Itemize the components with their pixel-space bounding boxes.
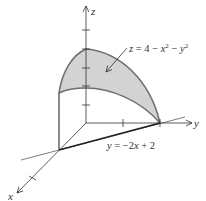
triple-integral-region-diagram: z y x z = 4 − x2 − y2 y = −2x + 2	[0, 0, 206, 201]
line-equation-label: y = −2x + 2	[106, 140, 155, 151]
z-axis-label: z	[90, 5, 96, 17]
y-axis-label: y	[193, 117, 199, 129]
x-axis-label: x	[7, 190, 13, 201]
paraboloid-surface	[59, 49, 160, 123]
surface-equation-label: z = 4 − x2 − y2	[128, 42, 189, 54]
